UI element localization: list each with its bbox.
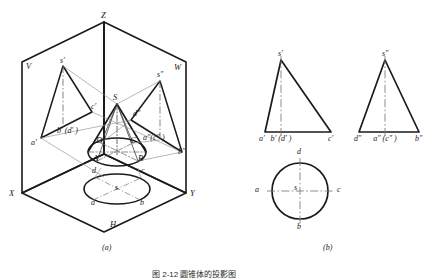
front-view-apex-label: s′ [278, 50, 283, 58]
h-plane-outline [22, 154, 186, 232]
front-view-base-label-c: c′ [328, 135, 333, 143]
top-view-label-s: s [294, 184, 297, 192]
side-proj-label-b: b″ [178, 148, 185, 156]
solid-label-a: A [93, 154, 98, 163]
top-view-label-a: a [255, 186, 259, 194]
side-view-base-label-ac: a″ (c″ ) [373, 135, 397, 143]
side-view-triangle [359, 60, 419, 132]
axis-label-y: Y [190, 189, 195, 198]
projector-base-level-1 [41, 120, 131, 138]
part-a-caption: (a) [102, 243, 111, 252]
front-proj-label-c: c′ [91, 103, 96, 111]
axis-label-x: X [9, 189, 14, 198]
solid-label-c: C [130, 136, 136, 145]
front-view-base-label-a: a′ [259, 135, 265, 143]
side-view-base-label-d: d″ [354, 135, 361, 143]
figure-title-caption: 图 2-12 圆锥体的投影图 [152, 268, 236, 279]
front-view-base-label-bd: b′ (d′ ) [271, 135, 292, 143]
top-proj-label-a: a [91, 199, 95, 207]
projector-apex-v-to-s [63, 66, 117, 104]
front-proj-label-s: s′ [60, 57, 65, 65]
solid-label-s: S [113, 93, 117, 102]
side-view-base-label-b: b″ [415, 135, 422, 143]
top-proj-label-b: b [140, 199, 144, 207]
plane-label-w: W [174, 63, 181, 72]
side-view-apex-label: s″ [382, 50, 388, 58]
part-b-caption: (b) [323, 243, 332, 252]
part-b-top-view [267, 158, 333, 224]
plane-label-v: V [26, 62, 31, 71]
top-proj-label-c: c [141, 167, 145, 175]
axis-label-z: Z [101, 11, 106, 20]
side-proj-label-ac: a″(c″ ) [143, 134, 165, 142]
top-view-label-c: c [337, 186, 341, 194]
front-proj-label-bd: b′ (d′ ) [57, 127, 78, 135]
top-view-label-d: d [297, 148, 301, 156]
solid-label-d: D [96, 136, 102, 145]
top-proj-label-s: s [115, 184, 118, 192]
front-view-triangle [265, 60, 331, 132]
projector-apex-s-to-w [117, 81, 160, 104]
w-plane-outline [104, 22, 186, 193]
top-proj-label-d: d [92, 167, 96, 175]
side-proj-label-d: d″ [133, 110, 140, 118]
solid-label-b: B [138, 154, 143, 163]
top-view-label-b: b [297, 223, 301, 231]
part-b-front-view [265, 60, 331, 132]
part-b-side-view [359, 60, 419, 132]
plane-label-h: H [110, 220, 116, 229]
front-proj-label-a: a′ [31, 139, 37, 147]
side-proj-label-s: s″ [157, 71, 163, 79]
